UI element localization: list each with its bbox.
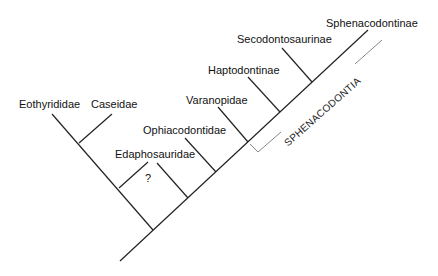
taxon-label-secodontosaurinae: Secodontosaurinae xyxy=(237,33,332,45)
uncertain-branch-line xyxy=(119,162,148,188)
taxon-label-haptodontinae: Haptodontinae xyxy=(208,64,280,76)
haptodontinae-branch-line xyxy=(248,77,280,112)
taxon-label-edaphosauridae: Edaphosauridae xyxy=(115,148,195,160)
edaphosauridae-branch-line xyxy=(157,163,188,198)
sphenacodontia-bracket-tail xyxy=(355,40,382,64)
secodontosaurinae-branch-line xyxy=(282,48,312,82)
caseasauria-branch-line xyxy=(52,114,153,230)
taxon-label-ophiacodontidae: Ophiacodontidae xyxy=(143,124,226,136)
uncertain-mark: ? xyxy=(145,172,151,184)
taxon-label-caseidae: Caseidae xyxy=(91,98,137,110)
caseidae-branch-line xyxy=(79,114,112,143)
taxon-label-varanopidae: Varanopidae xyxy=(186,94,248,106)
cladogram-canvas xyxy=(0,0,438,276)
taxon-label-eothyrididae: Eothyrididae xyxy=(19,98,80,110)
taxon-label-sphenacodontinae: Sphenacodontinae xyxy=(326,17,418,29)
